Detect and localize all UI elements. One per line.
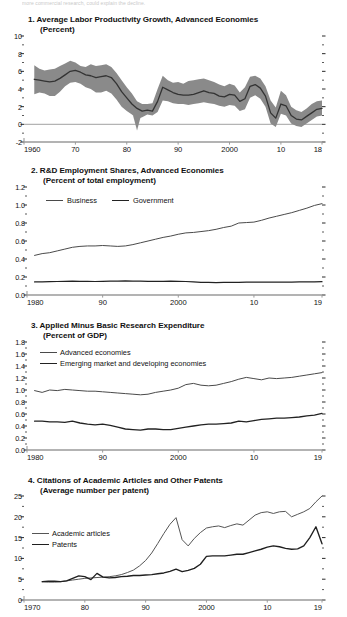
y-tick-label: -2 — [16, 138, 22, 147]
x-tick-label: 10 — [277, 145, 285, 154]
y-tick-label: 0 — [18, 596, 22, 605]
legend-label: Business — [67, 196, 97, 205]
legend-swatch — [32, 544, 49, 545]
y-tick-label: 0.0 — [15, 291, 25, 300]
legend: BusinessGovernment — [46, 194, 174, 206]
legend-swatch — [112, 200, 129, 201]
y-tick-label: 1.0 — [15, 201, 25, 210]
figure-root: more commercial research, could explain … — [0, 0, 347, 617]
legend-label: Government — [133, 196, 174, 205]
panel-subtitle: (Percent) — [40, 25, 75, 35]
y-tick-label: 1.2 — [15, 183, 25, 192]
chart-panel-3: 3. Applied Minus Basic Research Expendit… — [0, 320, 347, 468]
y-tick-label: 0.4 — [15, 255, 25, 264]
y-tick-label: 10 — [14, 32, 22, 41]
plot-area — [0, 165, 347, 313]
panel-title: 2. R&D Employment Shares, Advanced Econo… — [31, 166, 224, 176]
legend-label: Academic articles — [52, 529, 110, 538]
x-tick-label: 2000 — [198, 603, 215, 612]
x-tick-label: 18 — [314, 145, 322, 154]
y-tick-label: 2 — [18, 102, 22, 111]
panel-subtitle: (Percent of total employment) — [43, 176, 156, 186]
y-axis-labels: -20246810 — [0, 14, 22, 160]
panel-title: 3. Applied Minus Basic Research Expendit… — [31, 321, 204, 331]
plot-area — [0, 14, 347, 160]
x-tick-label: 1980 — [27, 298, 44, 307]
x-tick-label: 1970 — [24, 603, 41, 612]
x-tick-label: 80 — [81, 603, 89, 612]
x-tick-label: 10 — [250, 453, 258, 462]
chart-panel-4: 4. Citations of Academic Articles and Ot… — [0, 476, 347, 617]
x-tick-label: 2000 — [170, 298, 187, 307]
y-tick-label: 1.4 — [15, 362, 25, 371]
y-tick-label: 0.6 — [15, 237, 25, 246]
chart-panel-1: 1. Average Labor Productivity Growth, Ad… — [0, 14, 347, 160]
y-tick-label: 0 — [18, 120, 22, 129]
x-tick-label: 90 — [142, 603, 150, 612]
y-tick-label: 0.0 — [15, 446, 25, 455]
panel-title: 1. Average Labor Productivity Growth, Ad… — [28, 15, 258, 25]
x-tick-label: 19 — [314, 603, 322, 612]
y-tick-label: 0.8 — [15, 219, 25, 228]
x-tick-label: 1980 — [27, 453, 44, 462]
chart-panel-2: 2. R&D Employment Shares, Advanced Econo… — [0, 165, 347, 313]
y-tick-label: 1.2 — [15, 374, 25, 383]
panel-subtitle: (Percent of GDP) — [43, 331, 107, 341]
y-tick-label: 0.8 — [15, 398, 25, 407]
legend-swatch — [40, 352, 57, 353]
y-tick-label: 5 — [18, 575, 22, 584]
y-tick-label: 0.2 — [15, 434, 25, 443]
y-tick-label: 4 — [18, 85, 22, 94]
legend-label: Patents — [52, 540, 77, 549]
y-tick-label: 0.4 — [15, 422, 25, 431]
legend-swatch — [32, 533, 49, 534]
y-tick-label: 0.2 — [15, 273, 25, 282]
y-tick-label: 20 — [14, 512, 22, 521]
legend-label: Emerging market and developing economies — [60, 359, 206, 368]
y-axis-labels: 0510152025 — [0, 476, 22, 617]
x-tick-label: 90 — [174, 145, 182, 154]
y-tick-label: 1.0 — [15, 386, 25, 395]
legend: Advanced economiesEmerging market and de… — [40, 347, 206, 368]
y-axis-labels: 0.00.20.40.60.81.01.21.41.61.8 — [0, 320, 25, 468]
x-tick-label: 19 — [314, 453, 322, 462]
x-tick-label: 90 — [99, 298, 107, 307]
x-tick-label: 2000 — [170, 453, 187, 462]
legend-swatch — [46, 200, 63, 201]
legend-label: Advanced economies — [60, 348, 131, 357]
legend-swatch — [40, 363, 57, 364]
x-tick-label: 10 — [263, 603, 271, 612]
x-tick-label: 80 — [123, 145, 131, 154]
y-tick-label: 10 — [14, 554, 22, 563]
y-tick-label: 6 — [18, 67, 22, 76]
panel-title: 4. Citations of Academic Articles and Ot… — [28, 476, 223, 486]
x-tick-label: 90 — [99, 453, 107, 462]
y-tick-label: 1.8 — [15, 338, 25, 347]
caption-fragment: more commercial research, could explain … — [22, 0, 322, 8]
x-tick-label: 70 — [71, 145, 79, 154]
x-tick-label: 1960 — [24, 145, 41, 154]
legend: Academic articlesPatents — [32, 528, 110, 549]
y-tick-label: 25 — [14, 492, 22, 501]
y-axis-labels: 0.00.20.40.60.81.01.2 — [0, 165, 25, 313]
y-tick-label: 0.6 — [15, 410, 25, 419]
panel-subtitle: (Average number per patent) — [40, 486, 149, 496]
x-tick-label: 2000 — [221, 145, 238, 154]
y-tick-label: 8 — [18, 49, 22, 58]
y-tick-label: 15 — [14, 533, 22, 542]
plot-area — [0, 320, 347, 468]
x-tick-label: 10 — [250, 298, 258, 307]
y-tick-label: 1.6 — [15, 350, 25, 359]
x-tick-label: 19 — [314, 298, 322, 307]
